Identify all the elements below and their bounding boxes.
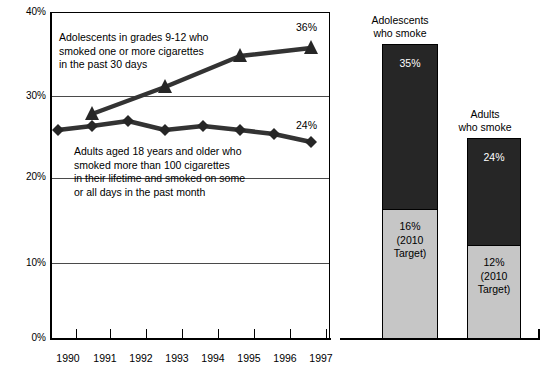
gridline-40 <box>50 12 330 13</box>
x-tick-1993 <box>182 329 183 339</box>
gridline-30 <box>50 96 330 97</box>
adults-bar-target-label: 12% (2010 Target) <box>468 256 520 297</box>
y-tick-label-0: 0% <box>0 332 46 343</box>
y-tick-label-20: 20% <box>0 171 46 182</box>
adults-marker-1992 <box>122 115 134 127</box>
adolescents-bar-target-label: 16% (2010 Target) <box>383 220 437 261</box>
line-chart-panel: 40% 30% 20% 10% 0% 1990 1991 1992 1993 1… <box>0 0 340 379</box>
adolescents-bar-current-label: 35% <box>383 57 437 71</box>
adults-marker-1993 <box>159 124 171 136</box>
adults-marker-1990 <box>52 124 64 136</box>
adolescents-bar-title: Adolescents who smoke <box>362 14 438 39</box>
bar-baseline-endcap <box>538 329 540 340</box>
y-tick-label-30: 30% <box>0 90 46 101</box>
y-axis <box>50 12 52 340</box>
adults-marker-1996 <box>268 128 280 140</box>
y-tick-label-40: 40% <box>0 6 46 17</box>
adults-marker-1991 <box>86 120 98 132</box>
adults-line <box>58 121 311 142</box>
adults-marker-1995 <box>234 124 246 136</box>
adolescents-bar-target: 16% (2010 Target) <box>382 209 438 339</box>
chart-screenshot: 40% 30% 20% 10% 0% 1990 1991 1992 1993 1… <box>0 0 553 379</box>
y-tick-label-10: 10% <box>0 257 46 268</box>
x-tick-1995 <box>254 329 255 339</box>
adults-bar-target: 12% (2010 Target) <box>467 245 521 339</box>
x-tick-1996 <box>290 329 291 339</box>
plot-right-border <box>329 12 330 340</box>
x-tick-1992 <box>146 329 147 339</box>
adolescents-bar-current: 35% <box>382 44 438 210</box>
adolescents-marker-1997 <box>304 40 318 54</box>
adults-bar-title: Adults who smoke <box>447 108 523 133</box>
bar-chart-panel: Adolescents who smoke 35% 16% (2010 Targ… <box>340 0 553 379</box>
x-tick-1990 <box>76 329 77 339</box>
adults-bar-current-label: 24% <box>468 151 520 165</box>
x-axis <box>50 338 331 340</box>
adults-bar-current: 24% <box>467 138 521 246</box>
adults-marker-1994 <box>197 120 209 132</box>
adolescents-annotation: Adolescents in grades 9-12 who smoked on… <box>59 31 289 72</box>
x-tick-1997 <box>326 329 327 339</box>
adolescents-marker-1993 <box>158 79 172 93</box>
adults-annotation: Adults aged 18 years and older who smoke… <box>74 145 314 199</box>
gridline-10 <box>50 263 330 264</box>
x-tick-1994 <box>218 329 219 339</box>
adolescents-end-label: 36% <box>296 21 317 33</box>
adults-end-label: 24% <box>296 119 317 131</box>
x-tick-1991 <box>110 329 111 339</box>
adolescents-marker-1991 <box>85 106 99 120</box>
